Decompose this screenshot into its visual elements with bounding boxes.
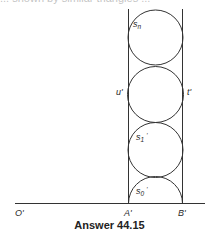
label-s0-prime: s0' xyxy=(136,186,148,197)
figure-caption: Answer 44.15 xyxy=(0,219,219,231)
label-s1-prime: s1' xyxy=(136,132,148,143)
circle-middle xyxy=(128,67,184,123)
label-t-prime: t' xyxy=(187,87,192,97)
label-o-prime: O' xyxy=(15,208,24,218)
circle-s1-prime xyxy=(128,123,183,178)
circle-chain-diagram: sn u' t' s1' s0' O' A' B' xyxy=(0,0,219,239)
label-b-prime: B' xyxy=(178,208,186,218)
label-u-prime: u' xyxy=(116,87,123,97)
label-s-n: sn xyxy=(133,19,142,30)
label-a-prime: A' xyxy=(123,208,132,218)
